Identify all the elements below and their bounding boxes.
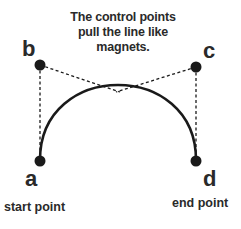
control-line-c-mid — [116, 67, 196, 92]
point-a-label: a — [25, 168, 37, 190]
point-b-label: b — [22, 38, 35, 60]
caption: The control points pull the line like ma… — [58, 10, 188, 55]
point-c-label: c — [203, 40, 215, 62]
bezier-curve — [40, 85, 196, 160]
point-b-dot — [35, 60, 46, 71]
point-d-dot — [191, 156, 202, 167]
point-c-dot — [191, 62, 202, 73]
end-point-label: end point — [172, 196, 228, 210]
point-d-label: d — [203, 168, 216, 190]
point-a-dot — [35, 156, 46, 167]
start-point-label: start point — [4, 200, 65, 214]
control-line-b-mid — [40, 65, 120, 92]
